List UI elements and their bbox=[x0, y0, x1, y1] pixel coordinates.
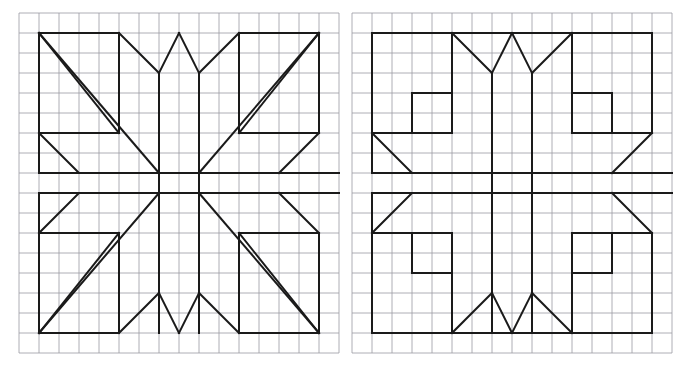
quilt-block-diagram bbox=[0, 0, 688, 365]
page-background bbox=[0, 0, 688, 365]
